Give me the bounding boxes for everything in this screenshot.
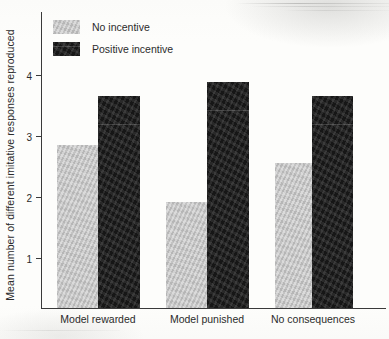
- legend-item-no-incentive: No incentive: [53, 18, 173, 35]
- y-tick-3: 3: [36, 136, 42, 137]
- y-tick-label-4: 4: [26, 70, 32, 81]
- y-axis-line: [41, 12, 42, 309]
- x-label-no-consequences: No consequences: [271, 313, 355, 325]
- x-label-model-punished: Model punished: [170, 313, 244, 325]
- bar-no-consequences-positive-incentive: [312, 96, 353, 308]
- bar-no-consequences-no-incentive: [275, 163, 312, 308]
- y-tick-2: 2: [36, 197, 42, 198]
- x-axis-line: [41, 308, 386, 309]
- legend-label-no-incentive: No incentive: [92, 21, 150, 33]
- bar-model-punished-positive-incentive: [207, 82, 249, 308]
- y-tick-label-2: 2: [26, 192, 32, 203]
- bar-model-rewarded-no-incentive: [57, 145, 98, 308]
- y-tick-label-1: 1: [26, 253, 32, 264]
- chart-legend: No incentive Positive incentive: [53, 18, 173, 62]
- bar-model-punished-no-incentive: [166, 202, 207, 308]
- y-axis-title: Mean number of different imitative respo…: [4, 29, 16, 300]
- legend-swatch-positive-incentive-icon: [53, 42, 80, 56]
- legend-label-positive-incentive: Positive incentive: [92, 43, 173, 55]
- bar-chart-plot-area: Mean number of different imitative respo…: [0, 0, 389, 339]
- bar-model-rewarded-positive-incentive: [98, 96, 140, 308]
- y-tick-4: 4: [36, 75, 42, 76]
- legend-swatch-no-incentive-icon: [53, 20, 80, 34]
- x-label-model-rewarded: Model rewarded: [60, 313, 135, 325]
- y-tick-1: 1: [36, 258, 42, 259]
- legend-item-positive-incentive: Positive incentive: [53, 40, 173, 57]
- y-tick-label-3: 3: [26, 131, 32, 142]
